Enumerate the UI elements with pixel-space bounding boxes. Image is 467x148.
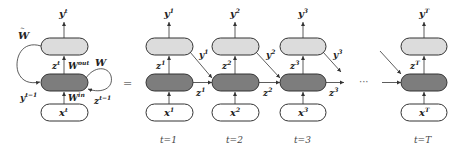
step-z-label: z3 bbox=[289, 59, 299, 71]
output-layer-box bbox=[280, 38, 326, 55]
step-z-label: z2 bbox=[221, 59, 231, 71]
w-tilde-label: W bbox=[18, 30, 31, 41]
y-incoming-arrow bbox=[380, 51, 401, 74]
step-3: y3 z3 x3 t=3 y3 z3 bbox=[280, 7, 344, 145]
w-tilde-loop bbox=[17, 45, 41, 83]
hidden-layer-box bbox=[280, 74, 326, 91]
carry-y-label: y3 bbox=[332, 48, 342, 60]
w-label: W bbox=[95, 57, 108, 68]
carry-y-label: y1 bbox=[198, 48, 208, 60]
y-prev-label: yt−1 bbox=[19, 91, 37, 103]
y-carry-arrow bbox=[323, 52, 341, 72]
step-1: y1 z1 x1 t=1 y1 z1 bbox=[146, 7, 212, 145]
time-label: t=3 bbox=[294, 135, 311, 145]
hidden-layer-box bbox=[212, 74, 259, 91]
w-loop bbox=[86, 69, 111, 91]
time-label: t=1 bbox=[160, 135, 177, 145]
step-T: yT zT xT t=T bbox=[380, 7, 447, 145]
step-z-label: zT bbox=[409, 59, 420, 71]
step-y-label: y1 bbox=[163, 7, 174, 19]
output-layer-box bbox=[401, 38, 447, 55]
hidden-layer-box bbox=[401, 74, 447, 91]
folded-z-label: zt bbox=[51, 59, 60, 71]
step-2: y2 z2 x2 t=2 y2 z2 bbox=[212, 7, 280, 145]
equals-sign: = bbox=[123, 77, 132, 90]
w-in-label: Win bbox=[68, 91, 85, 103]
carry-z-label: z1 bbox=[195, 86, 205, 98]
ellipsis: ··· bbox=[359, 76, 369, 87]
output-layer-box bbox=[146, 38, 193, 55]
step-y-label: y3 bbox=[297, 7, 308, 19]
time-label: t=2 bbox=[226, 135, 243, 145]
folded-rnn: yt zt Wout Win xt W ~ yt−1 W zt−1 bbox=[17, 7, 111, 121]
rnn-diagram: yt zt Wout Win xt W ~ yt−1 W zt−1 = y1 z… bbox=[0, 0, 467, 148]
carry-y-label: y2 bbox=[265, 48, 275, 60]
hidden-layer-box bbox=[146, 74, 193, 91]
z-prev-label: zt−1 bbox=[93, 94, 111, 106]
w-tilde-accent: ~ bbox=[20, 24, 25, 31]
hidden-layer-box bbox=[41, 74, 88, 91]
w-out-label: Wout bbox=[68, 59, 89, 71]
step-y-label: yT bbox=[418, 7, 430, 19]
step-y-label: y2 bbox=[229, 7, 240, 19]
carry-z-label: z2 bbox=[262, 86, 272, 98]
output-layer-box bbox=[41, 38, 88, 55]
output-layer-box bbox=[212, 38, 259, 55]
folded-y-label: yt bbox=[58, 7, 68, 19]
step-z-label: z1 bbox=[155, 59, 165, 71]
time-label: t=T bbox=[414, 135, 432, 145]
carry-z-label: z3 bbox=[328, 86, 338, 98]
